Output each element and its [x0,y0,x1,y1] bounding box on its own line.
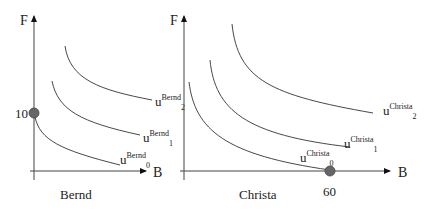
bernd-caption: Bernd [60,187,92,202]
bernd-y-axis-label: F [20,13,28,28]
bernd-x-axis-label: B [153,165,162,180]
bernd-curve-1 [52,81,140,135]
bernd-curve-label-2: uBernd2 [155,93,185,112]
christa-curve-1 [210,60,350,147]
christa-y-axis-label: F [170,13,178,28]
bernd-curve-label-0: uBernd0 [120,151,150,170]
svg-text:uChrista1: uChrista1 [344,135,378,154]
svg-text:uChrista2: uChrista2 [383,102,417,121]
christa-endowment-label: 60 [323,184,336,199]
indifference-curves-diagram: F B Bernd 10 uBernd0 uBernd1 uBernd2 F B… [0,0,428,211]
christa-curve-2 [232,24,373,113]
bernd-curve-2 [65,46,152,100]
bernd-endowment-label: 10 [15,106,28,121]
christa-curve-label-2: uChrista2 [383,102,417,121]
bernd-curve-label-1: uBernd1 [143,129,173,148]
svg-text:uBernd0: uBernd0 [120,151,150,170]
christa-panel: F B Christa 60 uChrista0 uChrista1 uChri… [170,13,417,202]
christa-curve-label-0: uChrista0 [300,149,334,168]
bernd-curve-0 [35,117,120,165]
svg-text:uChrista0: uChrista0 [300,149,334,168]
christa-curve-label-1: uChrista1 [344,135,378,154]
christa-caption: Christa [239,187,277,202]
bernd-panel: F B Bernd 10 uBernd0 uBernd1 uBernd2 [15,13,185,202]
bernd-endowment-dot [29,108,39,118]
christa-x-axis-label: B [398,165,407,180]
svg-text:uBernd1: uBernd1 [143,129,173,148]
svg-text:uBernd2: uBernd2 [155,93,185,112]
